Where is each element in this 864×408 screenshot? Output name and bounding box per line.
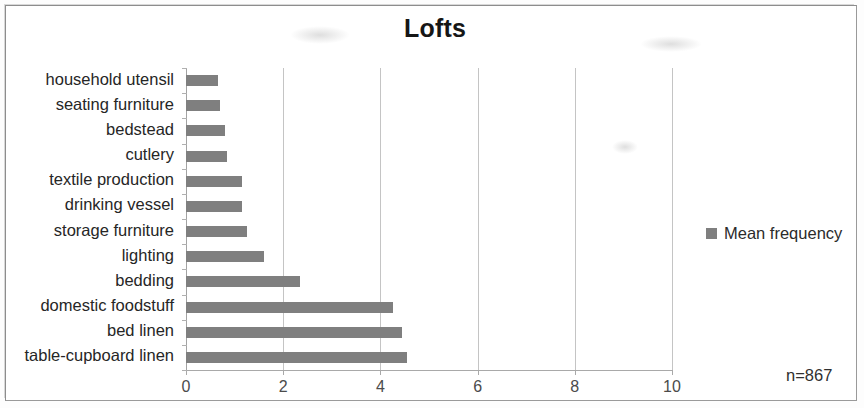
y-axis-tick [182,68,187,69]
category-label: textile production [49,170,174,189]
chart-figure: Lofts household utensilseating furniture… [0,0,864,408]
category-label: bed linen [107,321,174,340]
x-axis-tick-label: 0 [166,378,206,396]
y-axis-tick [182,244,187,245]
y-axis-tick [182,320,187,321]
chart-title: Lofts [330,14,540,43]
category-label: lighting [122,246,174,265]
bar [186,276,300,287]
x-axis-tick [283,370,284,375]
y-axis-tick [182,144,187,145]
category-label: drinking vessel [65,195,174,214]
legend-swatch-icon [706,228,717,239]
category-label: bedding [115,271,174,290]
category-label: household utensil [46,70,174,89]
y-axis-tick [182,169,187,170]
gridline [380,68,381,370]
gridline [672,68,673,370]
bar [186,226,247,237]
category-label: domestic foodstuff [40,296,174,315]
bar [186,201,242,212]
x-axis-tick-label: 10 [652,378,692,396]
x-axis-tick-label: 4 [360,378,400,396]
y-axis-tick [182,295,187,296]
x-axis-tick-label: 8 [555,378,595,396]
bar [186,176,242,187]
gridline [478,68,479,370]
x-axis-tick [672,370,673,375]
category-label: table-cupboard linen [24,346,174,365]
bar [186,302,393,313]
x-axis-tick-label: 2 [263,378,303,396]
y-axis-tick [182,269,187,270]
x-axis-tick [380,370,381,375]
category-label: seating furniture [56,95,174,114]
category-axis-line [185,370,673,371]
y-axis-tick [182,345,187,346]
bar [186,327,402,338]
category-label: cutlery [125,145,174,164]
sample-size-annotation: n=867 [786,366,832,385]
category-label: storage furniture [54,221,174,240]
bar [186,352,407,363]
gridline [283,68,284,370]
plot-area: 0246810 [186,68,672,370]
x-axis-tick-label: 6 [458,378,498,396]
y-axis-tick [182,370,187,371]
x-axis-tick [478,370,479,375]
gridline [575,68,576,370]
bar [186,125,225,136]
legend-item-label: Mean frequency [724,224,842,243]
bar [186,100,220,111]
x-axis-tick [575,370,576,375]
y-axis-tick [182,219,187,220]
category-label: bedstead [106,120,174,139]
bar [186,151,227,162]
category-axis-labels: household utensilseating furniturebedste… [0,68,180,370]
chart-legend: Mean frequency [706,224,842,243]
y-axis-tick [182,118,187,119]
y-axis-tick [182,93,187,94]
y-axis-tick [182,194,187,195]
bar [186,251,264,262]
bar [186,75,218,86]
